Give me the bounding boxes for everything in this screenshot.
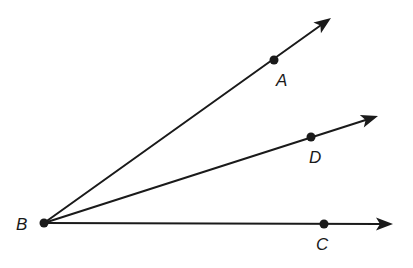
point-B [40,219,49,228]
ray-BD [44,120,366,223]
label-A: A [275,71,287,90]
label-D: D [309,148,321,167]
angle-diagram: B A D C [0,0,413,268]
point-C [320,220,329,229]
rays [44,18,393,230]
labels: B A D C [16,71,329,254]
ray-BC [44,223,380,224]
point-A [270,56,279,65]
label-C: C [316,235,329,254]
point-D [307,133,316,142]
arrowhead-icon [313,18,331,33]
label-B: B [16,215,27,234]
ray-BA [44,26,320,223]
